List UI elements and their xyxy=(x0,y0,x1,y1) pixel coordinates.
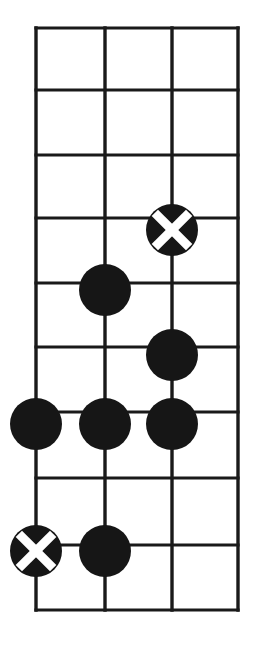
black-stone-disc xyxy=(79,264,131,316)
stone xyxy=(79,525,131,577)
stone xyxy=(79,264,131,316)
marked-stone xyxy=(146,204,198,256)
stone xyxy=(146,329,198,381)
black-stone-disc xyxy=(146,329,198,381)
go-board-diagram xyxy=(0,0,265,657)
marked-stone xyxy=(10,525,62,577)
black-stone-disc xyxy=(146,398,198,450)
stone xyxy=(146,398,198,450)
black-stone-disc xyxy=(10,398,62,450)
stone xyxy=(10,398,62,450)
black-stone-disc xyxy=(79,525,131,577)
go-board-canvas xyxy=(0,0,265,657)
black-stone-disc xyxy=(79,398,131,450)
stone xyxy=(79,398,131,450)
